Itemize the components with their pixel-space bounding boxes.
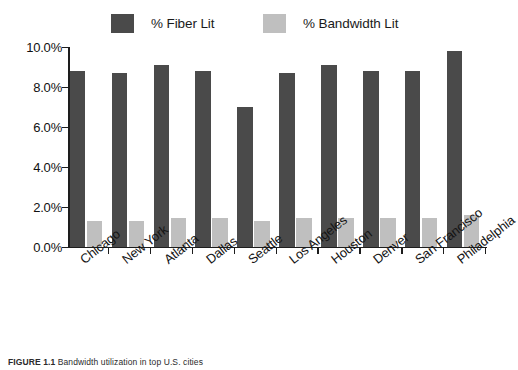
bar-fiber-lit [70, 71, 86, 247]
y-axis-tick [62, 87, 68, 88]
legend-swatch-bandwidth-lit [263, 14, 286, 33]
figure-caption-text: Bandwidth utilization in top U.S. cities [58, 357, 203, 367]
chart-legend: % Fiber Lit % Bandwidth Lit [0, 14, 499, 38]
legend-label-fiber-lit: % Fiber Lit [151, 16, 214, 31]
y-axis-tick-label: 6.0% [33, 120, 62, 135]
figure-caption: FIGURE 1.1 Bandwidth utilization in top … [8, 357, 428, 369]
bar-fiber-lit [237, 107, 253, 247]
bar-fiber-lit [279, 73, 295, 247]
bar-group [112, 47, 145, 247]
bar-group [195, 47, 228, 247]
bar-fiber-lit [112, 73, 128, 247]
x-axis-category-labels: ChicagoNew YorkAtlantaDallasSeattleLos A… [0, 249, 499, 349]
bar-group [154, 47, 187, 247]
y-axis-tick [62, 127, 68, 128]
plot-area [68, 47, 487, 247]
y-axis-tick [62, 167, 68, 168]
legend-item-fiber-lit: % Fiber Lit [111, 14, 214, 33]
figure-caption-number: FIGURE 1.1 [8, 357, 55, 367]
y-axis-tick-label: 10.0% [26, 40, 62, 55]
legend-label-bandwidth-lit: % Bandwidth Lit [303, 16, 398, 31]
bar-group [237, 47, 270, 247]
y-axis-tick-label: 4.0% [33, 160, 62, 175]
bar-group [405, 47, 438, 247]
y-axis-tick [62, 47, 68, 48]
bar-group [70, 47, 103, 247]
legend-item-bandwidth-lit: % Bandwidth Lit [263, 14, 398, 33]
bar-group [363, 47, 396, 247]
y-axis-tick-label: 2.0% [33, 200, 62, 215]
y-axis-tick-label: 8.0% [33, 80, 62, 95]
bar-group [279, 47, 312, 247]
bar-fiber-lit [405, 71, 421, 247]
bar-fiber-lit [195, 71, 211, 247]
y-axis-labels: 10.0%8.0%6.0%4.0%2.0%0.0% [0, 47, 62, 248]
legend-swatch-fiber-lit [111, 14, 134, 33]
bar-fiber-lit [154, 65, 170, 247]
y-axis-tick [62, 207, 68, 208]
bar-fiber-lit [363, 71, 379, 247]
